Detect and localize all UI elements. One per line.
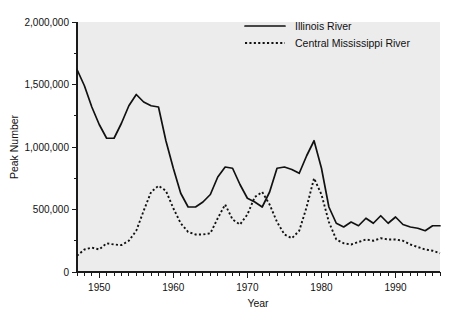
legend-label-central-mississippi-river: Central Mississippi River [295, 37, 410, 49]
plot-area-background [77, 22, 440, 272]
line-chart: 0500,0001,000,0001,500,0002,000,000 1950… [0, 0, 449, 320]
x-tick-label: 1980 [310, 282, 333, 293]
y-axis-ticks [72, 22, 77, 272]
x-tick-label: 1950 [88, 282, 111, 293]
x-axis-title: Year [247, 297, 269, 309]
chart-figure: 0500,0001,000,0001,500,0002,000,000 1950… [0, 0, 449, 320]
y-axis-title: Peak Number [8, 114, 20, 179]
y-tick-label: 0 [63, 267, 69, 278]
y-tick-label: 1,500,000 [25, 79, 70, 90]
x-tick-label: 1990 [384, 282, 407, 293]
y-tick-label: 2,000,000 [25, 17, 70, 28]
y-tick-label: 500,000 [33, 204, 70, 215]
x-tick-label: 1970 [236, 282, 259, 293]
y-tick-label: 1,000,000 [25, 142, 70, 153]
y-axis-tick-labels: 0500,0001,000,0001,500,0002,000,000 [25, 17, 70, 278]
x-tick-label: 1960 [162, 282, 185, 293]
x-axis-ticks [77, 272, 440, 278]
x-axis-tick-labels: 19501960197019801990 [88, 282, 407, 293]
legend-label-illinois-river: Illinois River [295, 20, 352, 32]
